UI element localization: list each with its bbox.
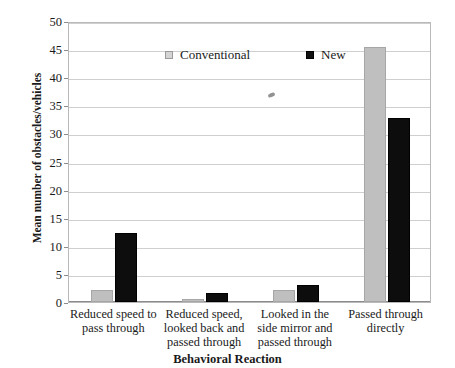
legend-swatch-conventional-icon: [165, 51, 173, 59]
legend-label-new: New: [321, 47, 346, 63]
y-tick-label: 45: [18, 44, 62, 57]
bar-conventional-0: [91, 290, 113, 302]
y-tick-label: 15: [18, 213, 62, 226]
category-label-line: Reduced speed,: [159, 307, 250, 321]
category-label-line: pass through: [68, 321, 159, 335]
bar-chart-figure: Mean number of obstacles/vehicles 051015…: [0, 0, 455, 368]
y-tick-label: 35: [18, 100, 62, 113]
legend-label-conventional: Conventional: [180, 47, 250, 63]
legend-item-conventional: Conventional: [165, 47, 250, 63]
bar-conventional-1: [182, 299, 204, 302]
y-tick-label: 50: [18, 16, 62, 29]
category-label-0: Reduced speed topass through: [68, 307, 159, 335]
category-label-line: passed through: [159, 335, 250, 349]
bar-new-0: [115, 233, 137, 302]
category-label-line: Reduced speed to: [68, 307, 159, 321]
plot-area: Conventional New: [68, 22, 431, 303]
bar-conventional-3: [364, 47, 386, 302]
bar-conventional-2: [273, 290, 295, 302]
legend-swatch-new-icon: [306, 51, 314, 59]
category-label-line: Looked in the: [250, 307, 341, 321]
legend: Conventional New: [165, 47, 346, 63]
category-label-1: Reduced speed,looked back andpassed thro…: [159, 307, 250, 350]
category-label-line: looked back and: [159, 321, 250, 335]
y-tick-label: 10: [18, 241, 62, 254]
bar-new-1: [206, 293, 228, 302]
category-label-3: Passed throughdirectly: [340, 307, 431, 335]
x-axis-title: Behavioral Reaction: [0, 352, 455, 367]
y-tick-label: 30: [18, 128, 62, 141]
y-tick-mark: [64, 303, 68, 304]
y-tick-label: 20: [18, 185, 62, 198]
y-tick-label: 5: [18, 269, 62, 282]
category-label-line: directly: [340, 321, 431, 335]
category-label-line: Passed through: [340, 307, 431, 321]
bars-group: [69, 23, 430, 302]
category-label-2: Looked in theside mirror andpassed throu…: [250, 307, 341, 350]
y-tick-label: 0: [18, 297, 62, 310]
category-label-line: side mirror and: [250, 321, 341, 335]
bar-new-2: [297, 285, 319, 302]
x-axis-category-labels: Reduced speed topass throughReduced spee…: [68, 307, 431, 353]
y-tick-label: 40: [18, 72, 62, 85]
category-label-line: passed through: [250, 335, 341, 349]
y-tick-label: 25: [18, 157, 62, 170]
legend-item-new: New: [306, 47, 346, 63]
bar-new-3: [388, 118, 410, 302]
